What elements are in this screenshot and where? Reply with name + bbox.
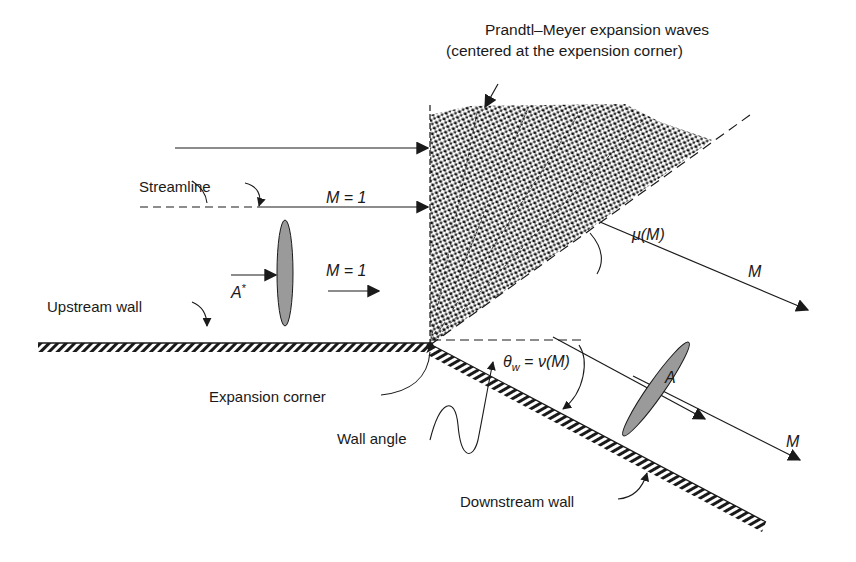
- mach-angle-label: μ(M): [632, 227, 665, 243]
- prandtl-meyer-diagram: [0, 0, 856, 562]
- upstream-wall-pointer: [192, 302, 207, 326]
- theta-symbol: θ: [503, 353, 512, 370]
- expansion-corner-pointer: [381, 352, 430, 395]
- mach-one-lower-label: M = 1: [326, 263, 366, 279]
- mach-one-upper-text: M = 1: [326, 189, 366, 206]
- theta-subscript: w: [512, 361, 520, 373]
- mach-downstream-upper-label: M: [748, 264, 761, 280]
- a-star-superscript: *: [242, 282, 246, 294]
- theta-equation-rhs: = ν(M): [520, 353, 570, 370]
- wall-angle-equation: θw = ν(M): [503, 354, 570, 373]
- mach-one-upper-label: M = 1: [326, 190, 366, 206]
- area-downstream-label: A: [665, 370, 676, 386]
- upstream-wall-label: Upstream wall: [47, 299, 142, 314]
- sonic-area-ellipse: [277, 220, 293, 326]
- expansion-corner-point: [427, 343, 434, 350]
- streamline-pointer: [245, 183, 260, 206]
- wall-angle-label: Wall angle: [337, 431, 406, 446]
- mach-one-lower-text: M = 1: [326, 262, 366, 279]
- a-star-text: A: [231, 284, 242, 301]
- a-star-label: A*: [231, 283, 246, 301]
- downstream-wall-label: Downstream wall: [460, 494, 574, 509]
- mach-angle-arc: [590, 233, 601, 274]
- fan-pointer-arrow: [485, 84, 498, 107]
- mu-text: μ(M): [632, 226, 665, 243]
- expansion-corner-label: Expansion corner: [209, 389, 326, 404]
- title-line-2: (centered at the expension corner): [446, 43, 683, 59]
- streamline-label: Streamline: [139, 179, 211, 194]
- expansion-fan: [430, 84, 750, 345]
- mach-downstream-upper-text: M: [748, 263, 761, 280]
- mach-downstream-lower-label: M: [786, 434, 799, 450]
- area-downstream-text: A: [665, 369, 676, 386]
- title-line-1: Prandtl–Meyer expansion waves: [485, 22, 709, 38]
- downstream-area-ellipse: [617, 338, 695, 441]
- upstream-wall: [38, 343, 431, 352]
- downstream-wall-pointer: [618, 473, 647, 499]
- mach-downstream-lower-text: M: [786, 433, 799, 450]
